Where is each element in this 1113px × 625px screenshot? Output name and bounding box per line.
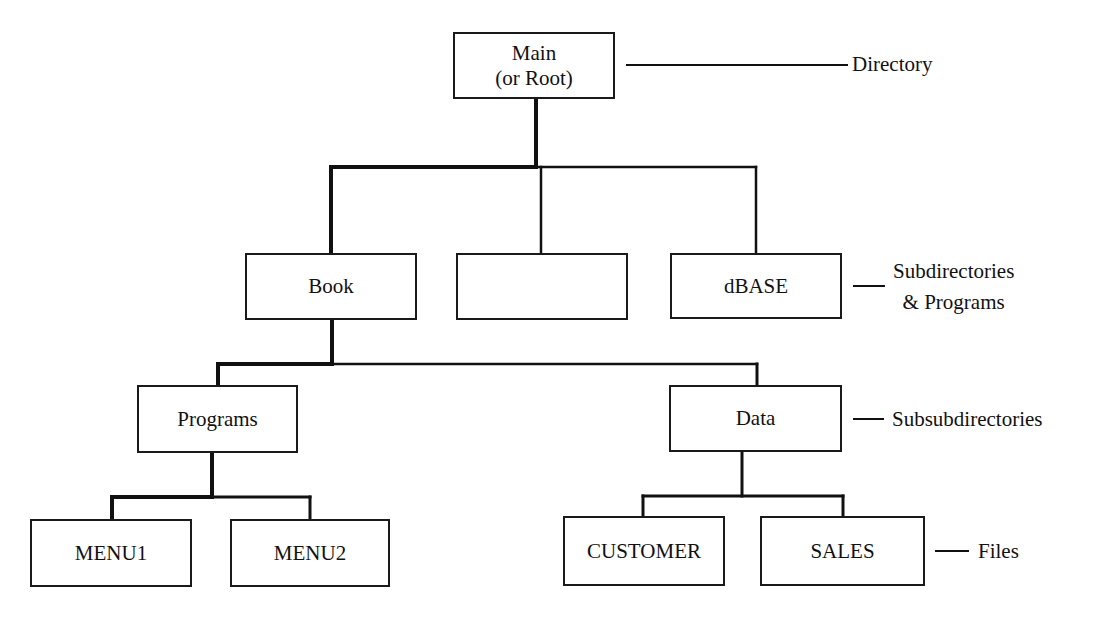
node-sales: SALES xyxy=(760,516,925,586)
label-subdirectories-line2: & Programs xyxy=(893,287,1014,318)
node-root-line2: (or Root) xyxy=(495,66,573,91)
node-menu1: MENU1 xyxy=(30,519,192,587)
node-dbase-label: dBASE xyxy=(724,274,788,299)
label-subdirectories: Subdirectories & Programs xyxy=(893,256,1014,318)
node-data: Data xyxy=(669,385,842,452)
node-menu2: MENU2 xyxy=(230,519,390,587)
leader-line-subdirectories xyxy=(853,285,885,287)
node-book: Book xyxy=(245,253,417,320)
node-customer-label: CUSTOMER xyxy=(587,539,701,564)
node-root: Main (or Root) xyxy=(453,32,615,99)
label-subdirectories-line1: Subdirectories xyxy=(893,256,1014,287)
node-programs-label: Programs xyxy=(177,407,258,432)
label-directory: Directory xyxy=(852,48,932,80)
label-subsubdirectories: Subsubdirectories xyxy=(892,403,1042,435)
node-customer: CUSTOMER xyxy=(563,516,725,586)
node-programs: Programs xyxy=(137,385,298,453)
directory-tree-diagram: Main (or Root) Book dBASE Programs Data … xyxy=(0,0,1113,625)
leader-line-subsubdirectories xyxy=(853,418,884,420)
node-menu2-label: MENU2 xyxy=(274,541,346,566)
node-menu1-label: MENU1 xyxy=(75,541,147,566)
node-root-line1: Main xyxy=(512,41,556,66)
node-unnamed xyxy=(456,253,628,320)
node-dbase: dBASE xyxy=(670,253,842,319)
leader-line-files xyxy=(935,550,969,552)
label-files: Files xyxy=(978,535,1019,567)
node-book-label: Book xyxy=(308,274,354,299)
leader-line-directory xyxy=(626,64,848,66)
node-sales-label: SALES xyxy=(810,539,874,564)
node-data-label: Data xyxy=(736,406,776,431)
